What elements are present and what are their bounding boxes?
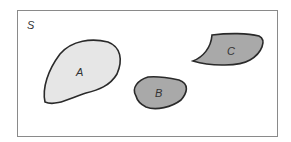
sample-space-label: S xyxy=(27,19,35,31)
set-a-label: A xyxy=(75,66,83,78)
set-b-label: B xyxy=(155,87,162,99)
venn-diagram: S A B C xyxy=(0,0,291,142)
set-c-label: C xyxy=(227,45,235,57)
